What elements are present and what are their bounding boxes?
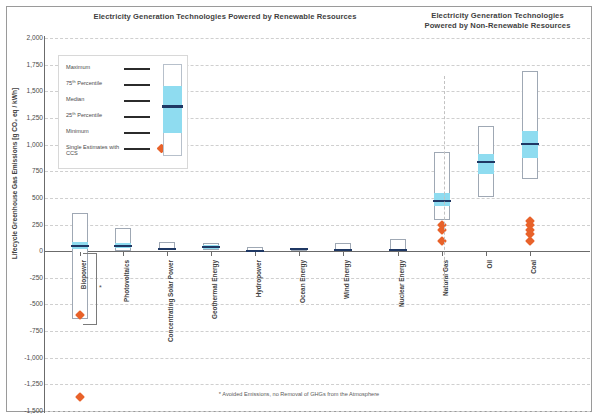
y-axis-tick: -1,000 bbox=[3, 354, 43, 361]
interquartile-band bbox=[478, 154, 494, 174]
legend-item-label: Single Estimates with CCS bbox=[66, 144, 121, 157]
median-line bbox=[334, 249, 352, 251]
legend-line-swatch bbox=[124, 148, 150, 150]
footnote: * Avoided Emissions, no Removal of GHGs … bbox=[0, 391, 598, 397]
legend-item-label: Maximum bbox=[66, 64, 121, 70]
box-whisker-range bbox=[522, 71, 538, 179]
legend-line-swatch bbox=[124, 100, 150, 102]
box-plot-column: Wind Energy bbox=[324, 38, 362, 411]
y-axis-tick: 2,000 bbox=[3, 34, 43, 41]
box-plot-column: Coal bbox=[511, 38, 549, 411]
x-axis-label: Geothermal Energy bbox=[211, 260, 218, 319]
box-plot-column: Natural Gas bbox=[423, 38, 461, 411]
median-line bbox=[290, 248, 308, 250]
legend-item-label: Minimum bbox=[66, 128, 121, 134]
x-axis-tick bbox=[486, 252, 487, 256]
chart-figure: Electricity Generation Technologies Powe… bbox=[0, 0, 598, 418]
bracket-footnote-marker: * bbox=[99, 284, 102, 291]
box-plot-column: Hydropower bbox=[236, 38, 274, 411]
x-axis-label: Coal bbox=[530, 260, 537, 274]
x-axis-tick bbox=[123, 252, 124, 256]
median-line bbox=[71, 245, 89, 247]
legend-median-line bbox=[162, 105, 183, 108]
y-axis-tick: 1,000 bbox=[3, 141, 43, 148]
header-non-renewable: Electricity Generation Technologies Powe… bbox=[405, 11, 590, 31]
median-line bbox=[521, 143, 539, 145]
x-axis-label: Ocean Energy bbox=[299, 260, 306, 303]
legend-item-label: Median bbox=[66, 96, 121, 102]
x-axis-tick bbox=[80, 252, 81, 256]
y-axis-tick: -250 bbox=[3, 274, 43, 281]
legend-line-swatch bbox=[124, 84, 150, 86]
x-axis-label: Wind Energy bbox=[343, 260, 350, 299]
median-line bbox=[389, 249, 407, 251]
box-plot-column: Nuclear Energy bbox=[379, 38, 417, 411]
median-line bbox=[202, 246, 220, 248]
legend-line-swatch bbox=[124, 116, 150, 118]
y-axis-tick: -750 bbox=[3, 327, 43, 334]
legend-line-swatch bbox=[124, 132, 150, 134]
y-axis-tick: 250 bbox=[3, 221, 43, 228]
box-plot-column: Geothermal Energy bbox=[192, 38, 230, 411]
legend-iqr-band bbox=[163, 86, 182, 133]
x-axis-label: Photovoltaics bbox=[123, 260, 130, 302]
x-axis-tick bbox=[343, 252, 344, 256]
median-line bbox=[158, 248, 176, 250]
x-axis-tick bbox=[530, 252, 531, 256]
header-renewable: Electricity Generation Technologies Powe… bbox=[60, 12, 390, 22]
y-axis-tick: -1,250 bbox=[3, 380, 43, 387]
y-axis-tick: 750 bbox=[3, 167, 43, 174]
legend-item-label: 25ᵗʰ Percentile bbox=[66, 112, 121, 118]
biopower-ccs-bracket bbox=[83, 253, 97, 325]
x-axis-tick bbox=[255, 252, 256, 256]
x-axis-label: Hydropower bbox=[255, 260, 262, 297]
box-whisker-range bbox=[434, 152, 450, 220]
x-axis-tick bbox=[299, 252, 300, 256]
median-line bbox=[433, 200, 451, 202]
group-divider bbox=[444, 76, 445, 290]
x-axis-label: Nuclear Energy bbox=[398, 260, 405, 307]
x-axis-tick bbox=[398, 252, 399, 256]
x-axis-tick bbox=[167, 252, 168, 256]
legend-line-swatch bbox=[124, 68, 150, 70]
legend: Maximum75ᵗʰ PercentileMedian25ᵗʰ Percent… bbox=[58, 55, 188, 169]
x-axis-label: Concentrating Solar Power bbox=[167, 260, 174, 342]
median-line bbox=[477, 161, 495, 163]
header-non-renewable-line1: Electricity Generation Technologies bbox=[405, 11, 590, 21]
y-axis-tick: 1,750 bbox=[3, 61, 43, 68]
y-axis-tick: 1,500 bbox=[3, 87, 43, 94]
x-axis-label: Oil bbox=[486, 260, 493, 269]
ccs-estimate-marker bbox=[437, 236, 447, 246]
y-axis-tick: 0 bbox=[3, 247, 43, 254]
y-axis-tick: -500 bbox=[3, 300, 43, 307]
y-axis-tick: -1,500 bbox=[3, 407, 43, 414]
y-axis-tick: 1,250 bbox=[3, 114, 43, 121]
x-axis-tick bbox=[211, 252, 212, 256]
box-plot-column: Ocean Energy bbox=[280, 38, 318, 411]
x-axis-tick bbox=[442, 252, 443, 256]
y-axis-tick: 500 bbox=[3, 194, 43, 201]
legend-item-label: 75ᵗʰ Percentile bbox=[66, 80, 121, 86]
gridline bbox=[45, 411, 590, 412]
header-non-renewable-line2: Powered by Non-Renewable Resources bbox=[405, 21, 590, 31]
box-plot-column: Oil bbox=[467, 38, 505, 411]
y-axis-tick-labels: 2,0001,7501,5001,2501,0007505002500-250-… bbox=[0, 38, 43, 411]
median-line bbox=[114, 245, 132, 247]
